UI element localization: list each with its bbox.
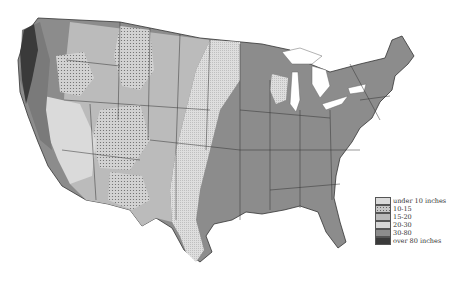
precipitation-map: [0, 0, 451, 293]
swatch-under-10: [375, 197, 391, 205]
legend-item-over-80: over 80 inches: [375, 237, 451, 245]
legend-item-15-20: 15-20: [375, 213, 451, 221]
legend-item-under-10: under 10 inches: [375, 197, 451, 205]
legend: under 10 inches 10-15 15-20 20-30 30-80 …: [375, 197, 451, 245]
legend-label: 15-20: [393, 213, 412, 221]
legend-label: over 80 inches: [393, 237, 441, 245]
swatch-over-80: [375, 237, 391, 245]
swatch-10-15: [375, 205, 391, 213]
legend-item-20-30: 20-30: [375, 221, 451, 229]
legend-label: 20-30: [393, 221, 412, 229]
legend-label: under 10 inches: [393, 197, 446, 205]
swatch-30-80: [375, 229, 391, 237]
legend-label: 30-80: [393, 229, 412, 237]
legend-item-30-80: 30-80: [375, 229, 451, 237]
legend-label: 10-15: [393, 205, 412, 213]
swatch-15-20: [375, 213, 391, 221]
legend-item-10-15: 10-15: [375, 205, 451, 213]
swatch-20-30: [375, 221, 391, 229]
